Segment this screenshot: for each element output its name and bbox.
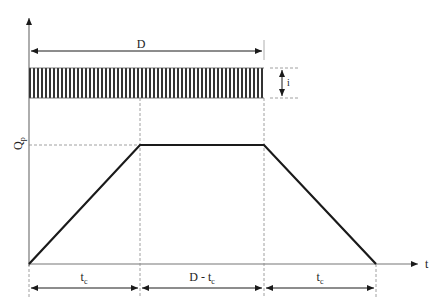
hydrograph-diagram: t D i Qp tc D - tc tc [0,0,440,302]
plateau-label: D - tc [189,270,215,286]
time-axis-label: t [425,257,429,271]
rise-time-label: tc [81,270,88,286]
recession-time-label: tc [317,270,324,286]
peak-flow-label: Qp [11,137,27,150]
rainfall-intensity-band [29,68,264,98]
svg-text:Qp: Qp [11,137,27,150]
hydrograph-line [29,145,376,264]
intensity-label: i [287,77,290,88]
duration-label: D [137,37,146,51]
